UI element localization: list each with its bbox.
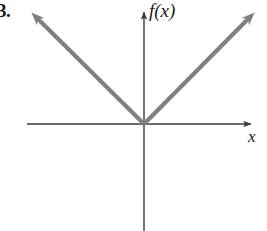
function-graph-figure: 3. f(x) x — [0, 0, 267, 231]
curve-right-arm — [144, 17, 250, 124]
graph-canvas — [0, 0, 267, 231]
curve-left-arm — [36, 17, 144, 124]
